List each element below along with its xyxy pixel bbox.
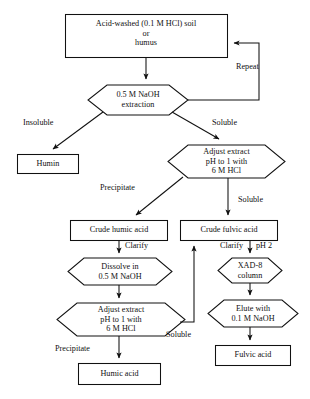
node-xad8-shape [218,258,282,283]
node-naoh-extraction-shape [88,85,188,115]
node-soil-shape [66,15,228,58]
node-fulvic-acid-shape [216,346,291,366]
node-crude-fulvic-shape [181,221,278,241]
flowchart-canvas: Acid-washed (0.1 M HCl) soil or humus 0.… [0,0,310,399]
node-adjust-bottom-shape [57,303,185,336]
edge-extraction-to-humin [53,112,103,149]
flowchart-graphics [0,0,310,399]
node-elute-shape [208,300,298,327]
node-dissolve-shape [68,258,172,285]
node-adjust-top-shape [168,145,285,178]
edge-extraction-to-adjust-top [172,112,219,139]
edge-adjust-top-to-crude-humic [136,177,183,215]
node-humic-acid-shape [79,364,161,385]
node-humin-shape [18,155,79,174]
node-crude-humic-shape [71,221,168,241]
edge-adjust-bottom-soluble-to-crude-fulvic [180,246,194,322]
